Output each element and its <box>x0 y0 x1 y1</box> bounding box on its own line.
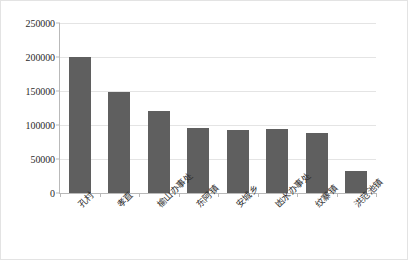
x-axis-tick-mark <box>139 193 140 197</box>
plot-area: 050000100000150000200000250000 <box>59 23 376 194</box>
x-axis-tick-mark <box>60 193 61 197</box>
y-axis-tick-mark <box>56 91 60 92</box>
bar <box>306 133 328 193</box>
y-axis-tick-label: 50000 <box>30 154 55 165</box>
bar-chart-figure: 050000100000150000200000250000 孔村孝直榆山办事处… <box>0 0 408 260</box>
y-axis-tick-mark <box>56 125 60 126</box>
y-axis-tick-label: 0 <box>50 188 55 199</box>
bar <box>108 92 130 193</box>
y-axis-tick-label: 250000 <box>26 18 55 29</box>
y-axis-tick-mark <box>56 57 60 58</box>
bar <box>187 128 209 193</box>
y-axis-tick-label: 200000 <box>26 52 55 63</box>
y-axis-tick-mark <box>56 159 60 160</box>
bar <box>227 130 249 193</box>
bar <box>69 57 91 193</box>
bar <box>266 129 288 193</box>
y-axis-tick-label: 150000 <box>26 86 55 97</box>
y-axis-tick-label: 100000 <box>26 120 55 131</box>
gridline <box>60 57 376 58</box>
x-axis-tick-mark <box>100 193 101 197</box>
bar <box>148 111 170 193</box>
gridline <box>60 23 376 24</box>
y-axis-tick-mark <box>56 23 60 24</box>
